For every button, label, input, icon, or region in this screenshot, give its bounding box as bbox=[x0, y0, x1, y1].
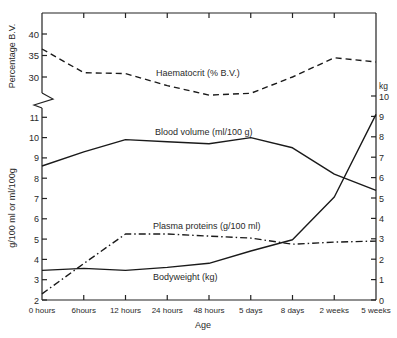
x-tick-label: 0 hours bbox=[29, 306, 56, 315]
x-tick-label: 5 weeks bbox=[361, 306, 390, 315]
chart: 303540234567891011012345678910 Percentag… bbox=[0, 0, 397, 338]
lower-y-tick-label: 4 bbox=[34, 255, 39, 265]
upper-y-tick-label: 35 bbox=[28, 50, 39, 61]
x-tick-label: 24 hours bbox=[152, 306, 183, 315]
lower-y-tick-label: 6 bbox=[34, 214, 39, 224]
blood-volume-label: Blood volume (ml/100 g) bbox=[155, 127, 253, 137]
lower-y-tick-label: 11 bbox=[30, 113, 39, 123]
right-y-tick-label: 4 bbox=[379, 214, 384, 224]
x-tick-labels: 0 hours6hours12 hours24 hours48 hours5 d… bbox=[29, 306, 391, 315]
lower-y-tick-label: 3 bbox=[34, 275, 39, 285]
lower-y-axis-label: g/100 ml or ml/100g bbox=[7, 168, 17, 248]
lower-y-tick-label: 7 bbox=[34, 194, 39, 204]
plasma-proteins-label: Plasma proteins (g/100 ml) bbox=[153, 221, 261, 231]
axis-ticks: 303540234567891011012345678910 bbox=[28, 13, 389, 306]
x-axis-label: Age bbox=[195, 320, 211, 330]
x-tick-label: 2 weeks bbox=[320, 306, 349, 315]
upper-y-tick-label: 30 bbox=[28, 72, 39, 83]
right-y-tick-label: 0 bbox=[379, 296, 384, 306]
lower-y-tick-label: 2 bbox=[34, 296, 39, 306]
x-tick-label: 48 hours bbox=[193, 306, 224, 315]
series-lines bbox=[42, 49, 376, 294]
right-y-tick-label: 3 bbox=[379, 234, 384, 244]
axis-break-icon bbox=[34, 93, 53, 108]
x-tick-label: 6hours bbox=[72, 306, 96, 315]
series-bodyweight-line bbox=[42, 114, 376, 270]
bodyweight-label: Bodyweight (kg) bbox=[153, 272, 218, 282]
haematocrit-label: Haematocrit (% B.V.) bbox=[156, 68, 240, 78]
right-y-tick-label: 1 bbox=[379, 275, 384, 285]
upper-y-tick-label: 40 bbox=[28, 29, 39, 40]
right-y-tick-label: 8 bbox=[379, 132, 384, 142]
x-tick-label: 5 days bbox=[239, 306, 263, 315]
right-y-tick-label: 6 bbox=[379, 173, 384, 183]
plot-frame bbox=[34, 13, 376, 300]
x-tick-label: 12 hours bbox=[110, 306, 141, 315]
right-y-tick-label: 9 bbox=[379, 112, 384, 122]
right-y-tick-label: 10 bbox=[379, 92, 389, 102]
upper-y-axis-label: Percentage B.V. bbox=[7, 24, 17, 89]
x-tick-label: 8 days bbox=[281, 306, 305, 315]
lower-y-tick-label: 9 bbox=[34, 153, 39, 163]
lower-y-tick-label: 8 bbox=[34, 174, 39, 184]
right-y-tick-label: 2 bbox=[379, 255, 384, 265]
lower-y-tick-label: 10 bbox=[29, 133, 39, 143]
right-axis-unit: kg bbox=[379, 81, 388, 91]
series-blood-line bbox=[42, 138, 376, 191]
lower-y-tick-label: 5 bbox=[34, 235, 39, 245]
right-y-tick-label: 7 bbox=[379, 153, 384, 163]
right-y-tick-label: 5 bbox=[379, 194, 384, 204]
